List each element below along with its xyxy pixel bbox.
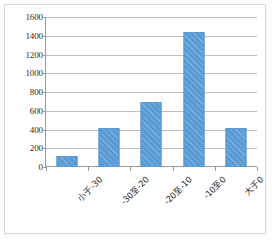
bar[interactable]	[99, 128, 120, 167]
bar[interactable]	[225, 128, 246, 167]
bar[interactable]	[57, 156, 78, 167]
y-axis-tick-mark	[42, 17, 46, 18]
y-axis-tick-label: 1000	[25, 69, 43, 78]
x-axis-tick-mark	[257, 167, 258, 171]
y-axis-tick-mark	[42, 73, 46, 74]
y-axis-tick-labels: 02004006008001000120014001600	[11, 17, 43, 167]
bar-slot	[46, 17, 88, 167]
bar[interactable]	[183, 32, 204, 167]
x-axis-tick-label: -10至0	[200, 173, 228, 201]
chart-plot-wrapper: 02004006008001000120014001600 小于-30-30至-…	[5, 5, 265, 233]
x-axis-tick-labels: 小于-30-30至-20-20至-10-10至0大于0	[46, 171, 257, 227]
y-axis-tick-mark	[42, 55, 46, 56]
y-axis-tick-mark	[42, 111, 46, 112]
y-axis-tick-mark	[42, 92, 46, 93]
y-axis-tick-label: 1200	[25, 50, 43, 59]
y-axis-tick-mark	[42, 130, 46, 131]
bar-slot	[173, 17, 215, 167]
x-axis-tick-label: 大于0	[241, 173, 266, 198]
x-axis-tick-label: -20至-10	[160, 173, 193, 206]
y-axis-tick-label: 1400	[25, 31, 43, 40]
bar[interactable]	[141, 102, 162, 167]
bars-layer	[46, 17, 257, 167]
x-axis-tick-label: -30至-20	[118, 173, 151, 206]
y-axis-tick-mark	[42, 148, 46, 149]
bar-slot	[130, 17, 172, 167]
chart-container: 02004006008001000120014001600 小于-30-30至-…	[4, 4, 266, 234]
bar-slot	[215, 17, 257, 167]
y-axis-tick-mark	[42, 36, 46, 37]
y-axis-tick-label: 1600	[25, 13, 43, 22]
bar-slot	[88, 17, 130, 167]
plot-area	[46, 17, 257, 167]
x-axis-tick-label: 小于-30	[74, 173, 104, 203]
